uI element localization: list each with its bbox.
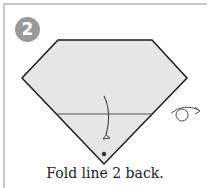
step-caption: Fold line 2 back. [0,165,210,181]
paper-shape [22,40,187,164]
point-marker-icon [102,152,106,156]
turn-over-icon [171,107,200,121]
step-number-badge: 2 [15,17,40,42]
